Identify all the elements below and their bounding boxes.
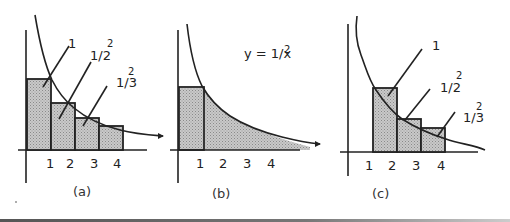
leader-line-3 <box>437 112 455 137</box>
bar-1 <box>27 79 51 150</box>
tick-4: 4 <box>267 156 275 171</box>
caption-c: (c) <box>372 186 389 201</box>
label-third-squared: 1/3 <box>463 110 484 125</box>
svg-text:2: 2 <box>476 101 482 112</box>
tick-2: 2 <box>219 156 227 171</box>
panel-b: y = 1/x 2 1 2 3 4 (b) <box>170 24 321 201</box>
tick-3: 3 <box>412 158 420 173</box>
leader-line-2 <box>405 89 430 120</box>
bottom-rule <box>0 219 510 222</box>
panel-c: 1 1/2 2 1/3 2 1 2 3 4 (c) <box>340 16 485 201</box>
tick-3: 3 <box>90 156 98 171</box>
tick-1: 1 <box>365 158 373 173</box>
tick-2: 2 <box>66 156 74 171</box>
tick-2: 2 <box>388 158 396 173</box>
label-1: 1 <box>68 36 76 51</box>
leader-line-1 <box>388 49 422 96</box>
tick-1: 1 <box>196 156 204 171</box>
svg-text:2: 2 <box>107 38 113 49</box>
caption-b: (b) <box>212 186 230 201</box>
bar-2 <box>51 103 75 150</box>
label-third-squared: 1/3 <box>116 75 137 90</box>
tick-3: 3 <box>243 156 251 171</box>
bar-3 <box>75 118 99 150</box>
bar-1 <box>373 88 397 152</box>
riemann-sum-diagram: 1 1/2 2 1/3 2 1 2 3 4 (a) y = 1/x 2 1 2 … <box>0 0 510 222</box>
label-half-squared: 1/2 <box>440 80 461 95</box>
svg-text:2: 2 <box>284 44 290 55</box>
svg-text:2: 2 <box>456 70 462 81</box>
tick-4: 4 <box>113 156 121 171</box>
arrow-icon <box>158 133 164 139</box>
svg-text:2: 2 <box>128 66 134 77</box>
tick-4: 4 <box>437 158 445 173</box>
arrow-icon <box>315 141 321 147</box>
stray-dot <box>15 201 17 203</box>
label-1: 1 <box>432 38 440 53</box>
area-under-curve <box>180 88 310 150</box>
label-half-squared: 1/2 <box>90 48 111 63</box>
tick-1: 1 <box>46 156 54 171</box>
panel-a: 1 1/2 2 1/3 2 1 2 3 4 (a) <box>15 15 164 203</box>
caption-a: (a) <box>73 184 91 199</box>
